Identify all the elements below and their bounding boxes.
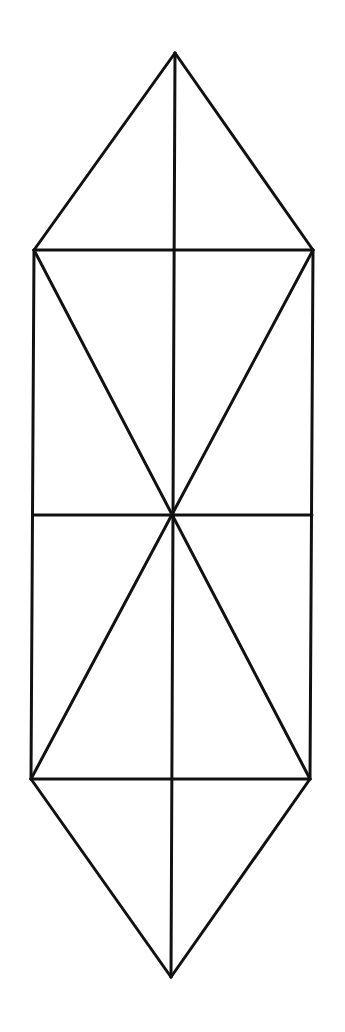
geometric-diagram	[0, 0, 345, 1032]
